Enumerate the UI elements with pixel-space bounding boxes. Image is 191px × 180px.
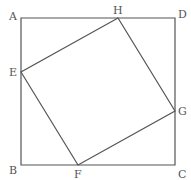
label-g: G — [178, 105, 187, 118]
inner-square-efgh — [21, 18, 175, 165]
outer-square-abcd — [21, 18, 175, 165]
label-d: D — [178, 8, 187, 21]
label-f: F — [74, 168, 82, 180]
geometry-diagram: A D H E G B F C — [0, 0, 191, 180]
label-c: C — [178, 168, 186, 180]
label-e: E — [9, 66, 17, 79]
label-b: B — [9, 164, 17, 177]
label-a: A — [8, 10, 18, 23]
label-h: H — [113, 4, 123, 17]
